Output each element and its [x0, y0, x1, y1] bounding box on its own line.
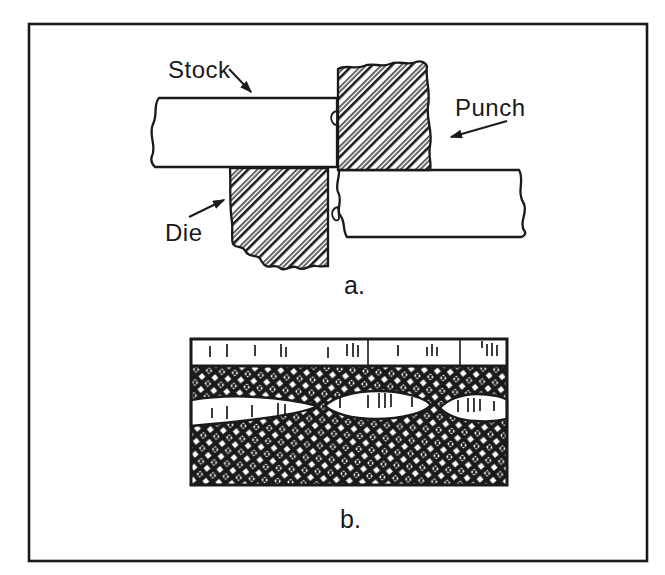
stock-arrow — [229, 69, 251, 92]
punch-block — [338, 61, 431, 170]
panel-b-caption: b. — [340, 505, 361, 533]
stock-label: Stock — [168, 56, 231, 83]
figure-page: Stock Punch Die a. b. — [0, 0, 665, 575]
panel-b: b. — [191, 339, 507, 533]
die-label: Die — [165, 219, 203, 246]
stock-right-sheet — [337, 170, 525, 237]
stock-left-sheet — [151, 98, 337, 167]
sheared-burr-bottom — [332, 207, 339, 220]
panel-a-caption: a. — [344, 271, 365, 299]
die-arrow — [189, 200, 224, 217]
panel-a: Stock Punch Die a. — [151, 56, 525, 299]
die-block — [230, 168, 328, 269]
shearing-figure: Stock Punch Die a. b. — [0, 0, 665, 575]
sheared-burr-top — [331, 111, 337, 125]
fracture-zone-texture — [191, 366, 507, 485]
punch-label: Punch — [455, 94, 526, 121]
punch-arrow — [451, 121, 507, 137]
